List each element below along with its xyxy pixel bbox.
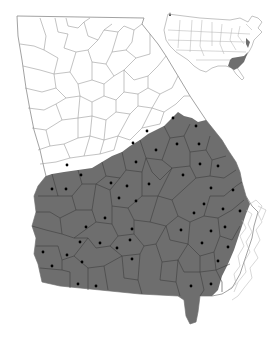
record-dot: [118, 197, 121, 200]
record-dot: [182, 174, 185, 177]
record-dot: [195, 125, 198, 128]
record-dot: [198, 143, 201, 146]
record-dot: [199, 163, 202, 166]
record-dot: [172, 117, 175, 120]
record-dot: [190, 285, 193, 288]
record-dot: [66, 254, 69, 257]
record-dot: [99, 242, 102, 245]
us-outline: [164, 14, 262, 80]
record-dot: [129, 239, 132, 242]
record-dot: [132, 142, 135, 145]
record-dot: [110, 182, 113, 185]
record-dot: [81, 261, 84, 264]
record-dot: [42, 251, 45, 254]
record-dot: [66, 164, 69, 167]
record-dot: [79, 241, 82, 244]
record-dot: [232, 189, 235, 192]
record-dot: [148, 183, 151, 186]
record-dot: [51, 265, 54, 268]
record-dot: [239, 210, 242, 213]
us-inset-map: [164, 12, 262, 80]
record-dot: [210, 283, 213, 286]
record-dot: [155, 149, 158, 152]
record-dot: [176, 143, 179, 146]
record-dot: [85, 226, 88, 229]
record-dot: [210, 230, 213, 233]
record-dot: [116, 247, 119, 250]
record-dot: [193, 212, 196, 215]
record-dot: [180, 229, 183, 232]
record-dot: [146, 130, 149, 133]
record-dot: [104, 217, 107, 220]
record-dot: [227, 246, 230, 249]
record-dot: [51, 188, 54, 191]
record-dot: [95, 285, 98, 288]
record-dot: [135, 200, 138, 203]
record-dot: [131, 228, 134, 231]
georgia-distribution-map: Georgia county distribution map: [0, 0, 280, 338]
record-dot: [201, 242, 204, 245]
record-dot: [135, 161, 138, 164]
record-dot: [217, 260, 220, 263]
record-dot: [210, 187, 213, 190]
record-dot: [131, 258, 134, 261]
record-dot: [217, 165, 220, 168]
record-dot: [80, 174, 83, 177]
record-dot: [203, 203, 206, 206]
record-dot: [224, 226, 227, 229]
record-dot: [126, 185, 129, 188]
record-dot: [65, 188, 68, 191]
record-dot: [222, 208, 225, 211]
record-dot: [77, 283, 80, 286]
